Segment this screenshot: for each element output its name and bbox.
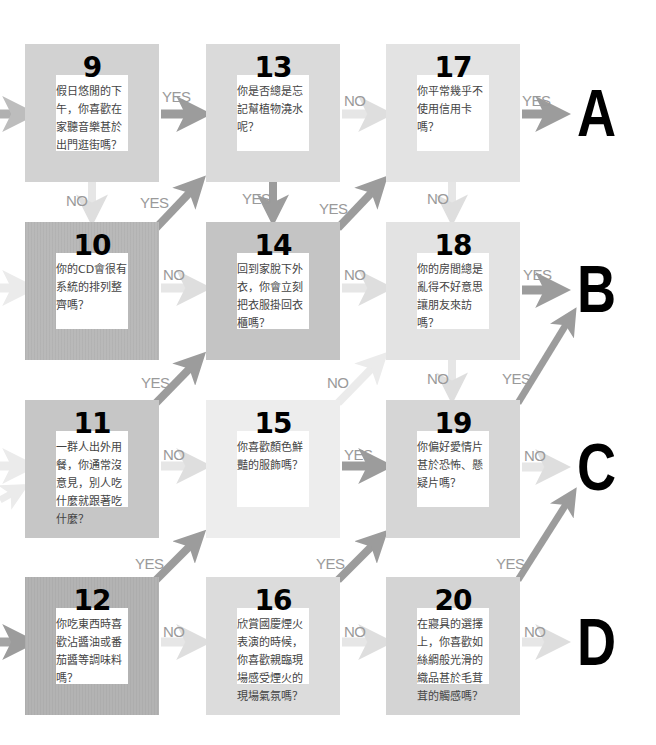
question-box-17: 17 你平常幾乎不使用信用卡嗎？ (386, 44, 520, 182)
question-box-16: 16 欣賞國慶煙火表演的時候，你喜歡親臨現場感受煙火的現場氣氛嗎？ (206, 577, 340, 715)
label-no-16-20: NO (344, 623, 366, 640)
result-A: A (577, 80, 616, 146)
question-text: 你的房間總是亂得不好意思讓朋友來訪嗎？ (417, 261, 492, 333)
label-yes-18-B: YES (523, 266, 552, 283)
label-yes-13-14: YES (242, 190, 271, 207)
question-text: 你喜歡顏色鮮豔的服飾嗎？ (237, 439, 312, 475)
personality-flowchart: 9 假日悠閒的下午，你喜歡在家聽音樂甚於出門逛街嗎？ 10 你的CD會很有系統的… (0, 0, 656, 745)
question-text: 欣賞國慶煙火表演的時候，你喜歡親臨現場感受煙火的現場氣氛嗎？ (237, 616, 312, 706)
question-number: 12 (25, 587, 159, 615)
question-box-19: 19 你偏好愛情片甚於恐怖、懸疑片嗎？ (386, 400, 520, 538)
label-yes-20-C: YES (496, 555, 525, 572)
label-no-9-10: NO (66, 192, 88, 209)
result-D: D (577, 609, 616, 675)
label-no-19-C: NO (524, 447, 546, 464)
question-text: 一群人出外用餐，你通常沒意見，別人吃什麼就跟著吃什麼？ (56, 439, 131, 529)
question-box-10: 10 你的CD會很有系統的排列整齊嗎？ (25, 222, 159, 360)
question-text: 你是否總是忘記幫植物澆水呢？ (237, 83, 312, 137)
question-number: 10 (25, 232, 159, 260)
question-text: 你偏好愛情片甚於恐怖、懸疑片嗎？ (417, 439, 492, 493)
label-yes-11-14: YES (141, 374, 170, 391)
label-no-15-18: NO (327, 374, 349, 391)
question-number: 19 (386, 410, 520, 438)
label-yes-15-19: YES (344, 446, 373, 463)
question-box-20: 20 在寢具的選擇上，你喜歡如絲綢般光滑的織品甚於毛茸茸的觸感嗎？ (386, 577, 520, 715)
label-no-13-17: NO (344, 92, 366, 109)
label-yes-16-19: YES (316, 555, 345, 572)
question-number: 18 (386, 232, 520, 260)
result-C: C (577, 434, 616, 500)
question-box-11: 11 一群人出外用餐，你通常沒意見，別人吃什麼就跟著吃什麼？ (25, 400, 159, 538)
question-box-13: 13 你是否總是忘記幫植物澆水呢？ (206, 44, 340, 182)
label-no-11-15: NO (163, 446, 185, 463)
label-yes-14-17: YES (319, 200, 348, 217)
label-no-10-14: NO (163, 266, 185, 283)
question-number: 16 (206, 587, 340, 615)
question-text: 假日悠閒的下午，你喜歡在家聽音樂甚於出門逛街嗎？ (56, 83, 131, 155)
label-yes-19-B: YES (502, 370, 531, 387)
question-text: 在寢具的選擇上，你喜歡如絲綢般光滑的織品甚於毛茸茸的觸感嗎？ (417, 616, 492, 706)
question-number: 11 (25, 410, 159, 438)
arrow-in-11b (0, 490, 18, 500)
label-yes-12-15: YES (135, 555, 164, 572)
label-no-14-18: NO (344, 266, 366, 283)
result-B: B (577, 256, 616, 322)
label-no-20-D: NO (524, 623, 546, 640)
question-text: 你的CD會很有系統的排列整齊嗎？ (56, 261, 131, 315)
question-text: 你平常幾乎不使用信用卡嗎？ (417, 83, 492, 137)
question-number: 14 (206, 232, 340, 260)
label-no-17-18: NO (427, 190, 449, 207)
question-text: 你吃東西時喜歡沾醬油或番茄醬等調味料嗎？ (56, 616, 131, 688)
question-number: 15 (206, 410, 340, 438)
label-yes-10-13: YES (140, 194, 169, 211)
label-no-18-19: NO (427, 370, 449, 387)
question-number: 9 (25, 54, 159, 82)
question-text: 回到家脫下外衣，你會立刻把衣服掛回衣櫃嗎？ (237, 261, 312, 333)
question-box-14: 14 回到家脫下外衣，你會立刻把衣服掛回衣櫃嗎？ (206, 222, 340, 360)
label-yes-17-A: YES (522, 92, 551, 109)
question-number: 20 (386, 587, 520, 615)
question-box-12: 12 你吃東西時喜歡沾醬油或番茄醬等調味料嗎？ (25, 577, 159, 715)
question-number: 13 (206, 54, 340, 82)
question-box-18: 18 你的房間總是亂得不好意思讓朋友來訪嗎？ (386, 222, 520, 360)
question-box-9: 9 假日悠閒的下午，你喜歡在家聽音樂甚於出門逛街嗎？ (25, 44, 159, 182)
arrow-20-C (518, 498, 570, 580)
question-number: 17 (386, 54, 520, 82)
label-no-12-16: NO (163, 623, 185, 640)
question-box-15: 15 你喜歡顏色鮮豔的服飾嗎？ (206, 400, 340, 538)
arrow-19-B (518, 318, 570, 403)
label-yes-9-13: YES (162, 88, 191, 105)
